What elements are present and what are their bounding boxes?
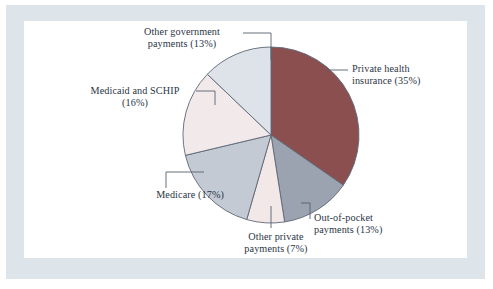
pie-label-other-government-line2: payments (13%) bbox=[148, 38, 216, 49]
pie-label-other-private-line2: payments (7%) bbox=[244, 243, 307, 254]
pie-label-other-government: Other government payments (13%) bbox=[122, 26, 242, 51]
pie-label-medicaid-schip: Medicaid and SCHIP (16%) bbox=[74, 85, 196, 110]
pie-label-out-of-pocket-line2: payments (13%) bbox=[314, 224, 382, 235]
figure-page: Other government payments (13%) Private … bbox=[0, 0, 493, 289]
pie-label-medicaid-schip-line1: Medicaid and SCHIP bbox=[91, 85, 180, 96]
pie-label-other-government-line1: Other government bbox=[144, 26, 220, 37]
pie-label-out-of-pocket: Out-of-pocket payments (13%) bbox=[314, 212, 440, 237]
pie-label-out-of-pocket-line1: Out-of-pocket bbox=[314, 212, 373, 223]
pie-label-private-health-line1: Private health bbox=[352, 63, 410, 74]
pie-label-medicare-line1: Medicare (17%) bbox=[156, 189, 224, 200]
pie-label-private-health: Private health insurance (35%) bbox=[352, 63, 482, 88]
pie-label-medicare: Medicare (17%) bbox=[112, 189, 224, 201]
pie-label-medicaid-schip-line2: (16%) bbox=[122, 97, 148, 108]
pie-label-other-private-line1: Other private bbox=[248, 231, 303, 242]
pie-label-private-health-line2: insurance (35%) bbox=[352, 75, 421, 86]
